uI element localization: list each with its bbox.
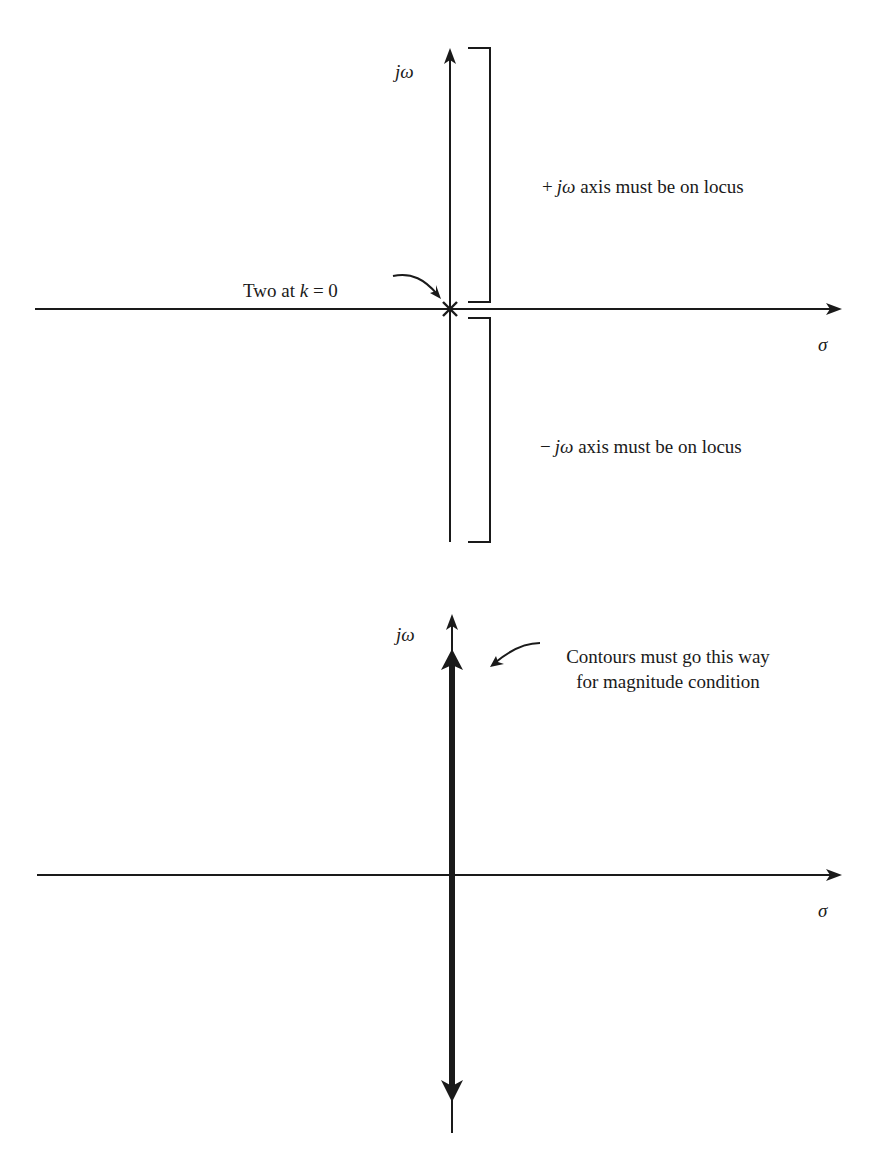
lower-bracket [468,318,490,542]
lower-bracket-label: −jω axis must be on locus [540,436,742,457]
sigma-axis-top [35,303,842,315]
upper-bracket [468,48,490,302]
upper-text: axis must be on locus [575,176,743,197]
contour-annotation-line2: for magnitude condition [576,671,760,692]
pole-annotation-suffix: = 0 [308,280,338,301]
upper-var: jω [554,176,576,197]
pole-annotation: Two at k = 0 [243,280,338,301]
contour-annotation-line1: Contours must go this way [566,646,770,667]
jw-axis-top [444,48,456,542]
upper-sign: + [542,176,553,197]
curved-arrow-icon [393,275,441,299]
bottom-diagram: jω σ Contours must go this way for magni… [37,614,842,1133]
sigma-axis-bottom [37,869,842,881]
sigma-axis-label-top: σ [818,334,828,355]
sigma-axis-label-bottom: σ [818,900,828,921]
jw-axis-label-top: jω [392,61,414,82]
upper-bracket-label: +jω axis must be on locus [542,176,744,197]
root-locus-figure: jω σ Two at k = 0 +jω axis must be on lo… [0,0,879,1175]
top-diagram: jω σ Two at k = 0 +jω axis must be on lo… [35,48,842,542]
lower-text: axis must be on locus [573,436,741,457]
jw-axis-label-bottom: jω [393,624,415,645]
lower-var: jω [552,436,574,457]
curved-arrow-icon [490,643,540,667]
pole-annotation-prefix: Two at [243,280,300,301]
lower-sign: − [540,436,551,457]
